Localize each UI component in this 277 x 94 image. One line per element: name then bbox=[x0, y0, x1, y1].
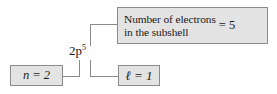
azimuthal-quantum-number-value: ℓ = 1 bbox=[125, 68, 152, 84]
connector-superscript-vertical bbox=[90, 24, 91, 46]
principal-quantum-number-value: n = 2 bbox=[23, 68, 50, 83]
orbital-notation-label: 2p5 bbox=[69, 44, 86, 58]
electron-count-phrase-line1: Number of electrons bbox=[124, 13, 216, 26]
connector-n-vertical bbox=[79, 60, 80, 76]
connector-l-vertical bbox=[90, 60, 91, 76]
azimuthal-quantum-number-box: ℓ = 1 bbox=[118, 65, 160, 86]
connector-n-horizontal bbox=[63, 76, 80, 77]
electron-count-value: = 5 bbox=[219, 18, 235, 33]
orbital-notation-superscript: 5 bbox=[82, 43, 86, 52]
orbital-notation-base: 2p bbox=[69, 43, 82, 58]
connector-l-horizontal bbox=[90, 76, 118, 77]
principal-quantum-number-box: n = 2 bbox=[10, 65, 63, 86]
connector-superscript-horizontal bbox=[90, 24, 117, 25]
electron-count-phrase: Number of electrons in the subshell bbox=[124, 13, 216, 39]
electron-count-phrase-line2: in the subshell bbox=[124, 26, 216, 39]
electron-count-box: Number of electrons in the subshell = 5 bbox=[117, 7, 268, 44]
diagram-canvas: Number of electrons in the subshell = 5 … bbox=[0, 0, 277, 94]
